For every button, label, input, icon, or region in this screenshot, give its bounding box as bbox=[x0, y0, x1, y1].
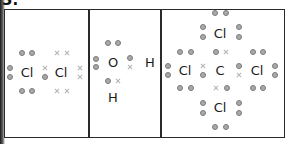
electron-dot-icon bbox=[223, 124, 229, 130]
atom-symbol: H bbox=[145, 56, 155, 69]
electron-dot-icon bbox=[200, 34, 206, 40]
electron-cross-icon bbox=[77, 74, 83, 80]
electron-dot-icon bbox=[127, 55, 133, 61]
electron-dot-icon bbox=[188, 49, 194, 55]
electron-dot-icon bbox=[7, 74, 13, 80]
electron-cross-icon bbox=[213, 85, 219, 91]
electron-dot-icon bbox=[236, 110, 242, 116]
electron-dot-icon bbox=[272, 63, 278, 69]
electron-dot-icon bbox=[200, 110, 206, 116]
atom-symbol: Cl bbox=[214, 27, 227, 40]
electron-cross-icon bbox=[64, 88, 70, 94]
question-number: 3. bbox=[2, 0, 18, 9]
electron-cross-icon bbox=[54, 88, 60, 94]
electron-cross-icon bbox=[64, 50, 70, 56]
electron-dot-icon bbox=[236, 100, 242, 106]
electron-cross-icon bbox=[77, 65, 83, 71]
electron-cross-icon bbox=[42, 65, 48, 71]
atom-symbol: Cl bbox=[55, 66, 68, 79]
electron-cross-icon bbox=[236, 72, 242, 78]
electron-dot-icon bbox=[105, 40, 111, 46]
electron-dot-icon bbox=[212, 10, 218, 16]
electron-dot-icon bbox=[7, 65, 13, 71]
electron-dot-icon bbox=[200, 100, 206, 106]
atom-symbol: Cl bbox=[214, 101, 227, 114]
electron-dot-icon bbox=[93, 56, 99, 62]
electron-dot-icon bbox=[200, 24, 206, 30]
electron-dot-icon bbox=[250, 49, 256, 55]
panel-divider bbox=[88, 9, 90, 138]
electron-dot-icon bbox=[223, 10, 229, 16]
atom-symbol: Cl bbox=[251, 64, 264, 77]
atom-symbol: H bbox=[108, 91, 118, 104]
electron-dot-icon bbox=[213, 49, 219, 55]
atom-symbol: Cl bbox=[21, 66, 34, 79]
electron-dot-icon bbox=[19, 88, 25, 94]
electron-dot-icon bbox=[29, 88, 35, 94]
electron-dot-icon bbox=[200, 72, 206, 78]
panel-divider bbox=[160, 9, 162, 138]
electron-dot-icon bbox=[236, 63, 242, 69]
electron-dot-icon bbox=[29, 50, 35, 56]
electron-dot-icon bbox=[165, 63, 171, 69]
electron-dot-icon bbox=[177, 85, 183, 91]
electron-cross-icon bbox=[115, 78, 121, 84]
atom-symbol: C bbox=[215, 64, 224, 77]
electron-dot-icon bbox=[188, 85, 194, 91]
electron-dot-icon bbox=[260, 49, 266, 55]
electron-dot-icon bbox=[260, 85, 266, 91]
electron-dot-icon bbox=[105, 78, 111, 84]
electron-cross-icon bbox=[127, 64, 133, 70]
electron-dot-icon bbox=[19, 50, 25, 56]
electron-dot-icon bbox=[224, 85, 230, 91]
electron-dot-icon bbox=[165, 72, 171, 78]
electron-cross-icon bbox=[54, 50, 60, 56]
electron-dot-icon bbox=[93, 64, 99, 70]
atom-symbol: O bbox=[108, 56, 118, 69]
electron-dot-icon bbox=[212, 124, 218, 130]
electron-dot-icon bbox=[42, 74, 48, 80]
electron-dot-icon bbox=[236, 24, 242, 30]
electron-dot-icon bbox=[250, 85, 256, 91]
electron-dot-icon bbox=[115, 40, 121, 46]
electron-dot-icon bbox=[177, 49, 183, 55]
electron-cross-icon bbox=[200, 63, 206, 69]
electron-dot-icon bbox=[272, 72, 278, 78]
electron-dot-icon bbox=[236, 34, 242, 40]
electron-cross-icon bbox=[223, 49, 229, 55]
atom-symbol: Cl bbox=[179, 64, 192, 77]
